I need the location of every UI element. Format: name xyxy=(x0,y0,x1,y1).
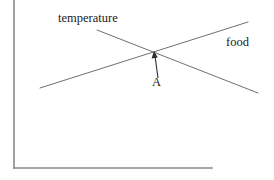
point-a-label: A xyxy=(152,76,161,89)
diagram-canvas: temperature food A xyxy=(0,0,274,180)
diagram-svg xyxy=(0,0,274,180)
food-line xyxy=(40,22,248,88)
temperature-label: temperature xyxy=(58,12,118,25)
food-label: food xyxy=(226,36,249,49)
